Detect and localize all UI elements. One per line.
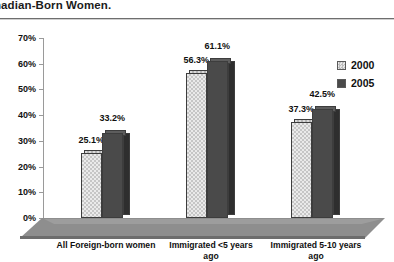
legend-swatch-2005-icon — [337, 79, 346, 88]
y-axis-tick — [39, 64, 44, 65]
data-label-2005-2: 42.5% — [310, 89, 336, 99]
floor-front-edge — [20, 236, 365, 239]
bar-front-face — [312, 109, 333, 218]
data-label-2000-0: 25.1% — [79, 135, 105, 145]
bar-2005-0 — [102, 133, 123, 218]
category-label-2: Immigrated 5-10 yearsago — [254, 240, 378, 262]
bar-2005-2 — [312, 109, 333, 218]
legend-label-2005: 2005 — [351, 77, 374, 89]
y-axis-tick — [39, 89, 44, 90]
y-axis-line — [43, 38, 44, 237]
y-axis-tick — [39, 192, 44, 193]
chart-floor — [20, 218, 385, 238]
y-axis-tick-label: 70% — [2, 33, 36, 43]
y-axis-tick-label: 10% — [2, 187, 36, 197]
bar-side-face — [123, 133, 130, 215]
page-title: nadian-Born Women. — [0, 0, 111, 11]
bar-2005-1 — [207, 61, 228, 218]
bar-front-face — [186, 73, 207, 218]
category-label-line2: ago — [254, 251, 378, 262]
data-label-2000-2: 37.3% — [289, 104, 315, 114]
bar-front-face — [291, 122, 312, 218]
bar-front-face — [81, 153, 102, 218]
y-axis-tick-label: 60% — [2, 59, 36, 69]
bar-front-face — [207, 61, 228, 218]
bar-front-face — [102, 133, 123, 218]
data-label-2000-1: 56.3% — [184, 55, 210, 65]
legend-label-2000: 2000 — [351, 59, 374, 71]
y-axis-tick-label: 50% — [2, 84, 36, 94]
bar-2000-1 — [186, 73, 207, 218]
bar-side-face — [333, 109, 340, 215]
y-axis-tick-label: 40% — [2, 110, 36, 120]
y-axis-tick-label: 30% — [2, 136, 36, 146]
plot-area: 0%10%20%30%40%50%60%70% 25.1%33.2%56.3%6… — [0, 20, 394, 257]
data-label-2005-0: 33.2% — [100, 113, 126, 123]
floor-highlight — [44, 219, 382, 224]
y-axis-tick — [39, 38, 44, 39]
y-axis-tick — [39, 167, 44, 168]
bar-side-face — [228, 61, 235, 215]
bar-2000-0 — [81, 153, 102, 218]
y-axis-tick — [39, 141, 44, 142]
data-label-2005-1: 61.1% — [205, 41, 231, 51]
category-label-line1: Immigrated 5-10 years — [254, 240, 378, 251]
legend-swatch-2000-icon — [337, 61, 346, 70]
y-axis-tick — [39, 115, 44, 116]
y-axis-tick-label: 20% — [2, 162, 36, 172]
bar-2000-2 — [291, 122, 312, 218]
